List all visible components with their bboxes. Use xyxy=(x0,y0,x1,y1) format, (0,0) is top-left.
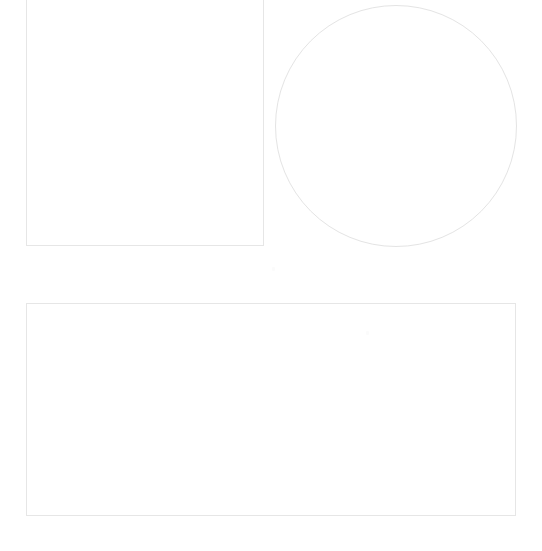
square-shape[interactable]: Square outline, top edge cropped by canv… xyxy=(26,0,264,246)
scan-speck xyxy=(366,331,369,335)
circle-shape[interactable]: Circle outline xyxy=(275,5,517,247)
scan-speck xyxy=(272,267,275,271)
circle-shape-label: Circle outline xyxy=(275,5,276,6)
rectangle-shape-label: Wide rectangle outline xyxy=(26,303,27,304)
rectangle-shape[interactable]: Wide rectangle outline xyxy=(26,303,516,516)
shape-layer: Square outline, top edge cropped by canv… xyxy=(0,0,542,551)
shapes-canvas: Square outline, top edge cropped by canv… xyxy=(0,0,542,551)
